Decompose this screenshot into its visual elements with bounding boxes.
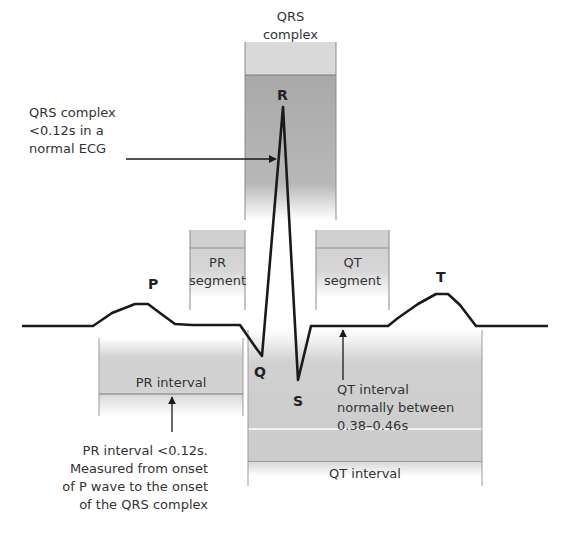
qrs-note: QRS complex <0.12s in a normal ECG — [29, 104, 116, 158]
qrs-note-line1: QRS complex — [29, 104, 116, 122]
qt-segment-line1: QT — [316, 254, 389, 272]
pr-segment-line2: segment — [186, 272, 249, 290]
qrs-header-line2: complex — [245, 26, 336, 44]
qt-note: QT interval normally between 0.38–0.46s — [337, 381, 454, 435]
wave-label-s: S — [293, 392, 303, 410]
qt-note-line2: normally between — [337, 399, 454, 417]
wave-label-p: P — [148, 275, 158, 293]
wave-label-q: Q — [254, 363, 266, 381]
pr-segment-header: PR segment — [186, 254, 249, 290]
pr-interval-header: PR interval — [99, 374, 243, 392]
pr-note-line1: PR interval <0.12s. — [30, 442, 208, 460]
qrs-complex-box — [245, 42, 336, 220]
pr-segment-line1: PR — [186, 254, 249, 272]
qrs-complex-header: QRS complex — [245, 8, 336, 44]
pr-note-line3: of P wave to the onset — [30, 478, 208, 496]
wave-label-t: T — [436, 268, 446, 286]
qt-note-line3: 0.38–0.46s — [337, 417, 454, 435]
pr-note-line4: of the QRS complex — [30, 496, 208, 514]
qt-note-line1: QT interval — [337, 381, 454, 399]
qt-interval-bottom-label: QT interval — [248, 465, 482, 483]
qt-segment-line2: segment — [316, 272, 389, 290]
pr-note: PR interval <0.12s. Measured from onset … — [30, 442, 208, 514]
pr-note-line2: Measured from onset — [30, 460, 208, 478]
wave-label-r: R — [277, 86, 288, 104]
qrs-header-line1: QRS — [245, 8, 336, 26]
qrs-note-line3: normal ECG — [29, 140, 116, 158]
qt-segment-header: QT segment — [316, 254, 389, 290]
qrs-note-line2: <0.12s in a — [29, 122, 116, 140]
